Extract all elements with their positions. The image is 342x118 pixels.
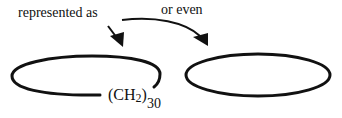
diagram-canvas: represented as or even (CH2)30 <box>0 0 342 118</box>
represented-as-label: represented as <box>18 6 98 20</box>
formula-ch2-30: (CH2)30 <box>108 87 161 103</box>
arrow-represented-as <box>108 26 124 47</box>
formula-atom-subscript: 2 <box>136 91 142 105</box>
formula-element: CH <box>113 86 135 103</box>
or-even-label: or even <box>161 3 203 17</box>
formula-repeat-subscript: 30 <box>147 96 161 111</box>
closed-ring-shape <box>186 54 330 96</box>
arrow-or-even <box>122 19 208 46</box>
